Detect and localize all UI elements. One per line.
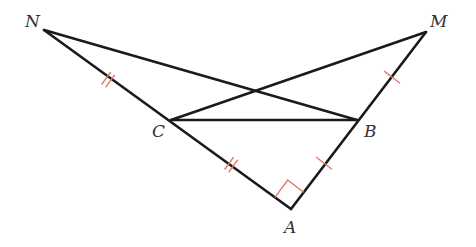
segment-MC — [171, 32, 426, 120]
point-labels: N M C B A — [24, 11, 448, 237]
tick-marks — [102, 71, 400, 172]
label-N: N — [24, 11, 41, 31]
label-A: A — [282, 217, 296, 237]
segment-NB — [44, 30, 357, 120]
label-B: B — [363, 121, 377, 141]
segments — [44, 30, 426, 209]
label-C: C — [152, 121, 165, 141]
label-M: M — [429, 11, 448, 31]
right-angle-icon — [275, 180, 304, 197]
geometry-diagram: N M C B A — [0, 0, 476, 247]
single-tick-MB-icon — [384, 71, 400, 83]
